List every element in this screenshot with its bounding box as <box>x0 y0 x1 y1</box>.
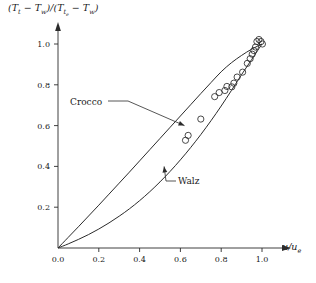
axis-tick-labels: 0.00.20.40.60.81.00.20.40.60.81.0 <box>37 40 268 264</box>
leader-arrowhead-crocco <box>178 121 184 126</box>
x-axis-arrowhead <box>282 245 291 251</box>
x-tick-label: 0.4 <box>133 255 146 264</box>
x-tick-label: 0.2 <box>92 255 105 264</box>
y-tick-label: 1.0 <box>37 40 50 49</box>
data-point <box>234 74 240 80</box>
y-tick-label: 0.8 <box>37 81 50 90</box>
data-point-markers <box>182 36 265 143</box>
y-axis-arrowhead <box>55 22 61 31</box>
curve-crocco <box>58 44 262 248</box>
x-tick-label: 0.6 <box>174 255 187 264</box>
annotation-leaders <box>108 101 185 181</box>
y-tick-label: 0.4 <box>37 162 50 171</box>
x-tick-label: 0.0 <box>52 255 65 264</box>
y-tick-label: 0.2 <box>37 203 50 212</box>
leader-line-walz <box>164 166 176 181</box>
chart-canvas: 0.00.20.40.60.81.00.20.40.60.81.0 <box>0 0 316 283</box>
data-point <box>198 116 204 122</box>
data-point <box>185 132 191 138</box>
y-tick-label: 0.6 <box>37 122 50 131</box>
x-axis-ticks <box>99 248 262 252</box>
leader-arrowhead-walz <box>162 166 167 172</box>
curve-walz <box>58 44 262 248</box>
x-tick-label: 0.8 <box>215 255 228 264</box>
data-point <box>216 89 222 95</box>
leader-line-crocco <box>108 101 185 126</box>
y-axis-ticks <box>54 44 58 207</box>
x-tick-label: 1.0 <box>256 255 269 264</box>
